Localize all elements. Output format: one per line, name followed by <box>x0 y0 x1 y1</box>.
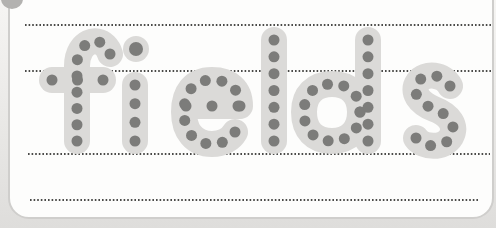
worksheet-canvas[interactable] <box>0 0 496 228</box>
worksheet-page <box>0 0 496 228</box>
